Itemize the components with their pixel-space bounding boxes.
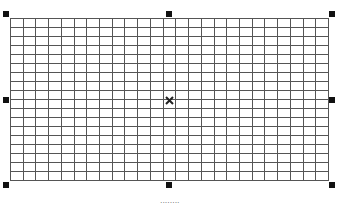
table-cell[interactable]	[227, 163, 240, 172]
table-cell[interactable]	[189, 136, 202, 145]
table-cell[interactable]	[125, 46, 138, 55]
table-cell[interactable]	[138, 55, 151, 64]
table-cell[interactable]	[112, 37, 125, 46]
table-cell[interactable]	[138, 145, 151, 154]
table-cell[interactable]	[138, 73, 151, 82]
table-cell[interactable]	[23, 118, 36, 127]
table-cell[interactable]	[74, 28, 87, 37]
table-cell[interactable]	[214, 127, 227, 136]
table-cell[interactable]	[303, 154, 316, 163]
table-cell[interactable]	[163, 136, 176, 145]
table-cell[interactable]	[11, 91, 24, 100]
table-cell[interactable]	[278, 28, 291, 37]
table-cell[interactable]	[239, 100, 252, 109]
table-cell[interactable]	[189, 172, 202, 181]
table-cell[interactable]	[23, 28, 36, 37]
table-cell[interactable]	[290, 55, 303, 64]
table-cell[interactable]	[176, 154, 189, 163]
table-cell[interactable]	[316, 127, 329, 136]
table-cell[interactable]	[214, 109, 227, 118]
table-cell[interactable]	[112, 91, 125, 100]
table-cell[interactable]	[61, 163, 74, 172]
table-cell[interactable]	[227, 100, 240, 109]
table-cell[interactable]	[189, 64, 202, 73]
table-cell[interactable]	[125, 127, 138, 136]
table-cell[interactable]	[252, 64, 265, 73]
table-cell[interactable]	[278, 100, 291, 109]
table-cell[interactable]	[11, 136, 24, 145]
table-cell[interactable]	[214, 55, 227, 64]
table-cell[interactable]	[265, 28, 278, 37]
table-cell[interactable]	[201, 55, 214, 64]
table-cell[interactable]	[49, 109, 62, 118]
table-cell[interactable]	[74, 19, 87, 28]
table-cell[interactable]	[138, 127, 151, 136]
table-cell[interactable]	[163, 127, 176, 136]
table-cell[interactable]	[201, 109, 214, 118]
table-cell[interactable]	[214, 37, 227, 46]
table-cell[interactable]	[214, 154, 227, 163]
table-cell[interactable]	[49, 55, 62, 64]
table-cell[interactable]	[125, 145, 138, 154]
table-cell[interactable]	[112, 28, 125, 37]
table-cell[interactable]	[23, 46, 36, 55]
table-cell[interactable]	[163, 64, 176, 73]
table-cell[interactable]	[150, 127, 163, 136]
table-cell[interactable]	[201, 136, 214, 145]
table-cell[interactable]	[252, 163, 265, 172]
table-cell[interactable]	[278, 154, 291, 163]
table-cell[interactable]	[303, 19, 316, 28]
table-cell[interactable]	[61, 19, 74, 28]
table-cell[interactable]	[303, 73, 316, 82]
table-cell[interactable]	[227, 28, 240, 37]
table-cell[interactable]	[11, 46, 24, 55]
table-cell[interactable]	[49, 145, 62, 154]
resize-handle-top-right[interactable]	[329, 11, 335, 17]
table-cell[interactable]	[227, 91, 240, 100]
table-cell[interactable]	[316, 100, 329, 109]
table-cell[interactable]	[36, 46, 49, 55]
table-cell[interactable]	[49, 37, 62, 46]
table-cell[interactable]	[278, 136, 291, 145]
table-cell[interactable]	[49, 73, 62, 82]
table-cell[interactable]	[214, 172, 227, 181]
table-cell[interactable]	[150, 118, 163, 127]
table-cell[interactable]	[316, 64, 329, 73]
table-cell[interactable]	[87, 55, 100, 64]
table-cell[interactable]	[303, 109, 316, 118]
table-cell[interactable]	[163, 109, 176, 118]
table-cell[interactable]	[112, 136, 125, 145]
table-cell[interactable]	[11, 172, 24, 181]
table-cell[interactable]	[23, 37, 36, 46]
table-cell[interactable]	[227, 127, 240, 136]
table-cell[interactable]	[87, 82, 100, 91]
table-cell[interactable]	[100, 163, 113, 172]
table-cell[interactable]	[265, 37, 278, 46]
table-cell[interactable]	[125, 118, 138, 127]
table-cell[interactable]	[100, 73, 113, 82]
table-cell[interactable]	[290, 64, 303, 73]
table-cell[interactable]	[303, 145, 316, 154]
table-cell[interactable]	[278, 37, 291, 46]
table-cell[interactable]	[49, 154, 62, 163]
table-cell[interactable]	[278, 91, 291, 100]
table-cell[interactable]	[11, 73, 24, 82]
table-cell[interactable]	[36, 37, 49, 46]
table-cell[interactable]	[303, 118, 316, 127]
table-cell[interactable]	[23, 145, 36, 154]
table-cell[interactable]	[278, 82, 291, 91]
table-cell[interactable]	[11, 109, 24, 118]
table-cell[interactable]	[11, 82, 24, 91]
table-cell[interactable]	[278, 109, 291, 118]
table-cell[interactable]	[227, 145, 240, 154]
table-cell[interactable]	[176, 64, 189, 73]
table-cell[interactable]	[176, 136, 189, 145]
table-cell[interactable]	[11, 163, 24, 172]
table-cell[interactable]	[87, 91, 100, 100]
table-cell[interactable]	[189, 46, 202, 55]
table-cell[interactable]	[11, 118, 24, 127]
table-cell[interactable]	[11, 145, 24, 154]
table-cell[interactable]	[214, 163, 227, 172]
table-cell[interactable]	[23, 55, 36, 64]
table-cell[interactable]	[163, 19, 176, 28]
